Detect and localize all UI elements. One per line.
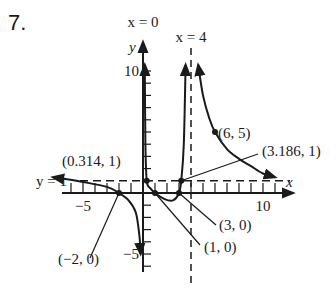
x-tick-label: 10 xyxy=(256,198,271,214)
point-marker xyxy=(176,190,182,196)
point-label: (6, 5) xyxy=(218,125,251,142)
x-axis-label: x xyxy=(285,174,293,190)
point-marker xyxy=(152,190,158,196)
callout-line xyxy=(155,193,200,245)
point-label: (3, 0) xyxy=(219,217,252,234)
y-tick-label: 10 xyxy=(124,63,139,79)
y-axis-label: y xyxy=(127,39,136,55)
point-marker xyxy=(116,190,122,196)
point-label: (1, 0) xyxy=(204,239,237,256)
callout-line xyxy=(179,193,216,225)
x-tick-label: −5 xyxy=(75,198,91,214)
asymptote-label: y = 1 xyxy=(36,173,67,189)
curve-right-branch xyxy=(198,65,275,177)
point-label: (3.186, 1) xyxy=(262,143,321,160)
asymptote-label: x = 4 xyxy=(176,29,207,45)
callout-line xyxy=(181,154,258,181)
point-marker xyxy=(178,178,184,184)
point-marker xyxy=(144,178,150,184)
point-label: (−2, 0) xyxy=(58,251,99,268)
y-tick-label: −5 xyxy=(123,246,139,262)
asymptote-label: x = 0 xyxy=(128,14,159,30)
function-graph: −51010−5xy x = 0x = 4y = 1 (−2, 0)(1, 0)… xyxy=(0,0,336,290)
point-label: (0.314, 1) xyxy=(62,153,121,170)
callout-line xyxy=(90,193,119,258)
